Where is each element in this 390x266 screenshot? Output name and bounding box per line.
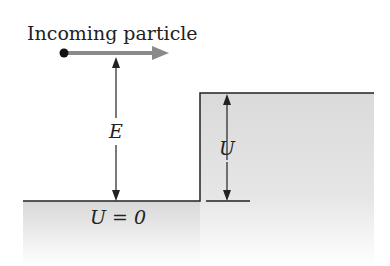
potential-step-diagram: Incoming particle E U U = 0: [0, 0, 390, 266]
incoming-particle-label: Incoming particle: [27, 22, 198, 44]
particle-arrowhead-icon: [152, 46, 169, 60]
barrier-region: [200, 93, 374, 266]
barrier-height-label: U: [219, 137, 235, 159]
energy-arrowhead-up-icon: [112, 57, 120, 68]
energy-arrowhead-down-icon: [112, 190, 120, 201]
energy-label: E: [109, 120, 123, 142]
ground-potential-label: U = 0: [90, 206, 146, 228]
particle-dot-icon: [60, 49, 69, 58]
